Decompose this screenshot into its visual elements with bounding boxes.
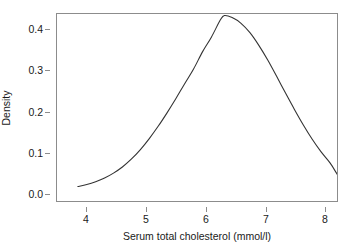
density-chart-figure: Density 0.4 0.3 0.2 0.1 0.0 4 5 6 7 8 Se… [0, 0, 349, 249]
x-tick-mark [325, 207, 326, 212]
y-tick-label: 0.0 [28, 189, 43, 200]
y-tick-mark [45, 70, 50, 71]
x-tick-label: 5 [143, 214, 149, 225]
x-tick-mark [266, 207, 267, 212]
density-curve-path [78, 15, 337, 186]
y-tick-label: 0.4 [28, 24, 43, 35]
x-axis-title: Serum total cholesterol (mmol/l) [123, 231, 271, 242]
y-tick-label: 0.1 [28, 148, 43, 159]
x-tick-label: 7 [263, 214, 269, 225]
x-tick-mark [206, 207, 207, 212]
x-tick-label: 4 [83, 214, 89, 225]
y-tick-label: 0.2 [28, 107, 43, 118]
plot-area [56, 13, 338, 202]
y-tick-mark [45, 29, 50, 30]
y-tick-label: 0.3 [28, 65, 43, 76]
density-curve-svg [57, 14, 337, 201]
y-axis-title: Density [1, 90, 12, 125]
y-tick-mark [45, 112, 50, 113]
x-tick-label: 8 [322, 214, 328, 225]
x-tick-mark [86, 207, 87, 212]
x-axis: 4 5 6 7 8 Serum total cholesterol (mmol/… [0, 202, 349, 249]
y-tick-mark [45, 153, 50, 154]
x-tick-mark [146, 207, 147, 212]
x-tick-label: 6 [203, 214, 209, 225]
y-tick-mark [45, 194, 50, 195]
